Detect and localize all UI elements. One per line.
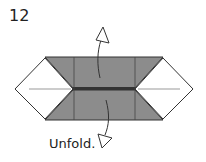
origami-diagram bbox=[0, 0, 206, 162]
instruction-label: Unfold. bbox=[49, 136, 95, 151]
up-arrowhead-icon bbox=[96, 27, 109, 43]
center-crease bbox=[73, 87, 135, 90]
down-arrowhead-icon bbox=[98, 134, 112, 148]
